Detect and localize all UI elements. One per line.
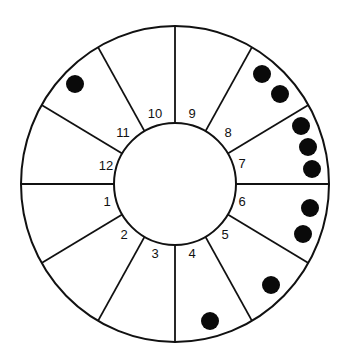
sector-5-dot [262, 276, 280, 294]
sector-7-dot [303, 160, 321, 178]
sector-6-dot [294, 225, 312, 243]
sector-label-6: 6 [238, 194, 245, 209]
sector-label-1: 1 [103, 194, 110, 209]
sector-label-9: 9 [188, 106, 195, 121]
sector-label-12: 12 [99, 158, 113, 173]
sector-label-8: 8 [224, 125, 231, 140]
sector-label-4: 4 [188, 246, 195, 261]
sector-label-7: 7 [238, 156, 245, 171]
sector-6-dot [301, 199, 319, 217]
sector-label-10: 10 [148, 106, 162, 121]
sector-wheel-diagram: 123456789101112 [0, 0, 347, 362]
sector-label-5: 5 [221, 227, 228, 242]
sector-4-dot [201, 312, 219, 330]
sector-11-dot [66, 75, 84, 93]
sector-label-3: 3 [151, 246, 158, 261]
sector-label-11: 11 [116, 125, 130, 140]
sector-8-dot [271, 85, 289, 103]
sector-7-dot [299, 138, 317, 156]
sector-8-dot [253, 65, 271, 83]
sector-label-2: 2 [120, 227, 127, 242]
sector-7-dot [292, 117, 310, 135]
inner-hub-circle [114, 123, 236, 245]
